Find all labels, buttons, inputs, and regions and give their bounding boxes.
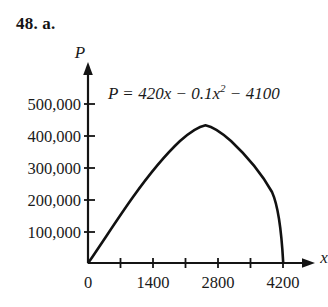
equation-equals: = <box>122 84 134 103</box>
figure-container: 48. a. <box>0 0 328 307</box>
x-tick-label-4200: 4200 <box>267 273 300 292</box>
y-axis-arrowhead <box>83 62 93 75</box>
x-tick-label-2800: 2800 <box>202 273 235 292</box>
x-tick-label-0: 0 <box>84 273 92 292</box>
y-tick-label-100000: 100,000 <box>27 223 81 242</box>
parabola-plot: P x 500,000 400,000 300,000 200,000 100,… <box>0 0 328 307</box>
y-tick-label-300000: 300,000 <box>27 159 81 178</box>
x-axis-label: x <box>319 248 328 267</box>
equation-term3: 4100 <box>246 84 280 103</box>
y-axis-ticks <box>84 104 95 232</box>
y-axis-label: P <box>74 43 85 62</box>
x-tick-label-1400: 1400 <box>137 273 170 292</box>
y-tick-label-200000: 200,000 <box>27 191 81 210</box>
equation-term2-coefficient: 0.1x <box>191 84 220 103</box>
x-axis-arrowhead <box>302 258 315 268</box>
equation-lhs: P <box>108 84 118 103</box>
x-axis <box>88 258 315 268</box>
y-tick-label-500000: 500,000 <box>27 95 81 114</box>
equation-term1: 420x <box>138 84 171 103</box>
equation-minus-2: − <box>230 84 242 103</box>
parabola-curve <box>89 125 284 262</box>
equation-annotation: P = 420x − 0.1x2 − 4100 <box>108 84 280 104</box>
equation-minus-1: − <box>175 84 187 103</box>
y-tick-label-400000: 400,000 <box>27 127 81 146</box>
equation-term2-exponent: 2 <box>220 82 226 94</box>
